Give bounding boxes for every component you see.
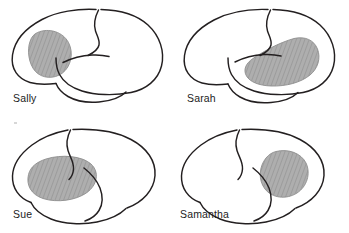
brain-panel-sally: Sally (0, 0, 175, 117)
lesion-region-sue (28, 156, 96, 200)
central-sulcus-sally (88, 10, 99, 56)
cortex-outline-samantha (181, 130, 237, 203)
brain-panel-samantha: Samantha (174, 116, 349, 233)
panel-label-sally: Sally (13, 93, 37, 104)
central-sulcus-samantha (236, 130, 243, 180)
brain-panel-sue: Sue (0, 116, 175, 233)
panel-label-samantha: Samantha (180, 209, 229, 220)
brain-panel-sarah: Sarah (174, 0, 349, 117)
cortex-outline-sally-2 (56, 10, 163, 95)
panel-label-sarah: Sarah (187, 93, 216, 104)
panel-label-sue: Sue (13, 209, 32, 220)
lesion-region-sarah (245, 38, 319, 86)
central-sulcus-sarah (260, 10, 271, 56)
lesion-region-samantha (260, 151, 308, 198)
sylvian-fissure-sue (31, 203, 126, 224)
lesion-region-sally (29, 30, 72, 77)
brain-figure-grid: Sally Sarah (0, 0, 349, 233)
stray-speck (14, 122, 17, 124)
